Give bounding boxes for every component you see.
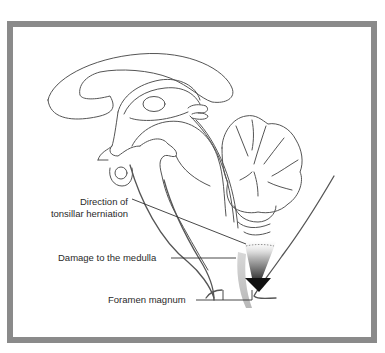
label-foramen: Foramen magnum (108, 294, 186, 306)
label-damage: Damage to the medulla (58, 252, 156, 264)
brain-sagittal-diagram (0, 0, 385, 353)
label-direction-line1: Direction of (40, 196, 128, 208)
thalamus (143, 97, 165, 112)
label-direction: Direction of tonsillar herniation (40, 196, 128, 220)
brainstem (140, 139, 208, 270)
skull-left (130, 165, 214, 298)
label-direction-line2: tonsillar herniation (40, 208, 128, 220)
